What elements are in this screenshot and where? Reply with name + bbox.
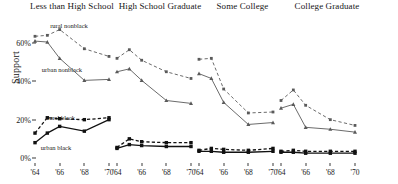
data-point (128, 137, 131, 140)
data-point (304, 104, 307, 107)
data-point (128, 48, 131, 51)
data-point (58, 125, 61, 128)
data-point (247, 112, 250, 115)
data-point (280, 99, 283, 102)
data-point (58, 28, 61, 31)
data-point (292, 151, 295, 154)
data-point (271, 150, 274, 153)
data-point (353, 152, 356, 155)
series-line-urban-black (35, 120, 109, 143)
plot-area (0, 0, 398, 184)
series-line-urban-nonblack (117, 69, 191, 104)
series-line-rural-nonblack (117, 50, 191, 79)
series-line-urban-nonblack (35, 41, 109, 80)
data-point (222, 151, 225, 154)
series-line-rural-nonblack (281, 90, 355, 125)
data-point (197, 72, 201, 76)
data-point (140, 140, 143, 143)
data-point (247, 151, 250, 154)
chart-root: Less than High School High School Gradua… (0, 0, 398, 184)
data-point (83, 129, 86, 132)
data-point (83, 47, 86, 50)
data-point (222, 88, 225, 91)
data-point (165, 141, 168, 144)
series-line-urban-nonblack (281, 104, 355, 132)
data-point (108, 55, 111, 58)
data-point (197, 150, 200, 153)
data-point (198, 58, 201, 61)
data-point (292, 89, 295, 92)
data-point (33, 131, 36, 134)
data-point (329, 118, 332, 121)
series-line-rural-nonblack (199, 58, 273, 113)
data-point (354, 124, 357, 127)
data-point (304, 152, 307, 155)
data-point (116, 57, 119, 60)
data-point (210, 150, 213, 153)
data-point (127, 67, 131, 71)
data-point (189, 145, 192, 148)
data-point (33, 141, 36, 144)
data-point (83, 118, 86, 121)
data-point (46, 131, 49, 134)
data-point (140, 144, 143, 147)
data-point (210, 57, 213, 60)
data-point (115, 147, 118, 150)
data-point (165, 145, 168, 148)
data-point (128, 143, 131, 146)
data-point (46, 34, 49, 37)
data-point (190, 77, 193, 80)
data-point (165, 70, 168, 73)
data-point (46, 116, 49, 119)
data-point (34, 35, 37, 38)
data-point (329, 152, 332, 155)
data-point (58, 117, 61, 120)
data-point (107, 118, 110, 121)
data-point (279, 151, 282, 154)
data-point (189, 141, 192, 144)
data-point (140, 59, 143, 62)
data-point (222, 100, 226, 104)
data-point (291, 102, 295, 106)
data-point (272, 111, 275, 114)
series-line-urban-nonblack (199, 74, 273, 125)
